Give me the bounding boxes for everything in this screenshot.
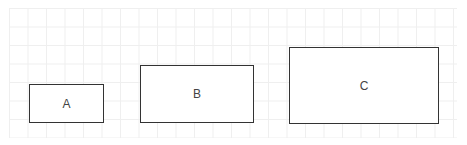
rectangle-a[interactable]: A (29, 84, 104, 123)
rectangle-b-label: B (193, 87, 201, 101)
rectangle-a-label: A (62, 97, 70, 111)
rectangle-c[interactable]: C (289, 47, 439, 124)
rectangle-c-label: C (360, 79, 369, 93)
rectangle-b[interactable]: B (140, 65, 254, 123)
